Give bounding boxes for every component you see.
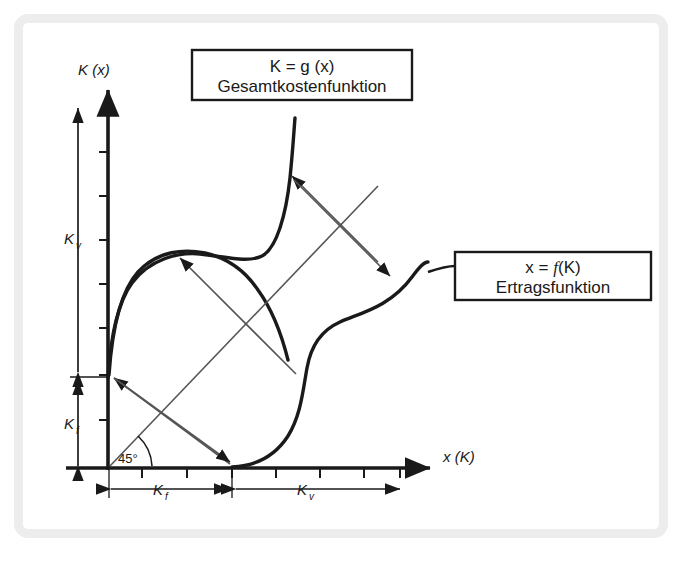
svg-text:K: K: [64, 415, 75, 432]
callout-output-prefix: x =: [525, 258, 553, 277]
gesamtkosten-curve: [108, 118, 295, 378]
callout-output-suffix: (K): [558, 258, 581, 277]
svg-text:v: v: [309, 491, 315, 502]
curves-group: [109, 251, 288, 375]
kv-horizontal-label: K v: [297, 481, 315, 502]
svg-text:K: K: [153, 481, 164, 498]
cost-function-diagram: K (x) x (K): [0, 0, 698, 564]
x-axis-label: x (K): [442, 448, 475, 465]
svg-text:K: K: [297, 481, 308, 498]
callout-total-cost-line2: Gesamtkostenfunktion: [217, 77, 386, 96]
callout-total-cost-line1: K = g (x): [270, 57, 335, 76]
arrow-up-to-gesamtkosten: [292, 176, 378, 262]
svg-text:v: v: [76, 240, 82, 251]
callout-output-line2: Ertragsfunktion: [496, 278, 610, 297]
kf-horizontal-label: K f: [153, 481, 169, 502]
kv-vertical-label: K v: [64, 230, 82, 251]
reference-arrows: [110, 176, 390, 466]
arrow-to-total-cost-left: [180, 258, 296, 374]
angle-arc: [138, 436, 152, 466]
callout-output-line1: x = f(K): [525, 258, 580, 277]
callout-total-cost[interactable]: K = g (x) Gesamtkostenfunktion: [192, 50, 412, 100]
y-axis-label: K (x): [78, 61, 110, 78]
arrow-diag-to-xaxis: [114, 378, 230, 462]
forty-five-degree-line: [110, 186, 378, 466]
svg-text:f: f: [165, 491, 169, 502]
angle-label: 45°: [118, 451, 138, 466]
callout-output-function[interactable]: x = f(K) Ertragsfunktion: [428, 252, 651, 300]
vertical-dimensions: [70, 108, 110, 468]
axes-group: K (x) x (K): [66, 61, 475, 478]
cost-curves: [108, 118, 428, 467]
arrow-down-to-ertrags: [294, 180, 390, 276]
total-cost-curve: [109, 251, 288, 375]
diagram-page: K (x) x (K): [0, 0, 698, 564]
svg-text:K: K: [64, 230, 75, 247]
svg-text:f: f: [76, 425, 80, 436]
callout-output-connector: [428, 266, 455, 272]
